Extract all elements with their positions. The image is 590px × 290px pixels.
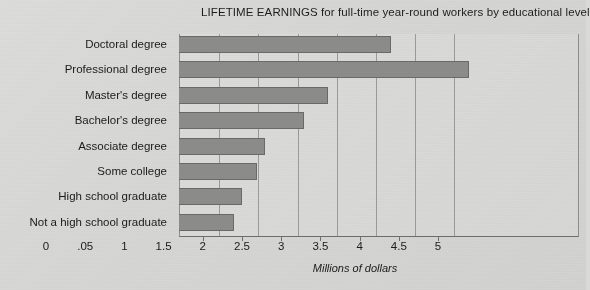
x-tick-label: 2.5 bbox=[234, 240, 250, 252]
category-label: Associate degree bbox=[78, 138, 167, 155]
bar bbox=[179, 36, 391, 53]
x-axis-title-text: Millions of dollars bbox=[313, 262, 397, 274]
x-axis-title: Millions of dollars bbox=[0, 262, 586, 274]
x-tick-label: 5 bbox=[435, 240, 441, 252]
category-label: High school graduate bbox=[58, 188, 167, 205]
x-tick-label: 1 bbox=[121, 240, 127, 252]
x-tick-label: 3 bbox=[278, 240, 284, 252]
category-label: Not a high school graduate bbox=[30, 214, 167, 231]
chart-title: LIFETIME EARNINGS for full-time year-rou… bbox=[201, 6, 590, 18]
bar bbox=[179, 214, 234, 231]
bar-fill bbox=[179, 112, 304, 129]
bar bbox=[179, 138, 265, 155]
x-tick-label: 0 bbox=[43, 240, 49, 252]
category-label: Master's degree bbox=[85, 87, 167, 104]
category-label: Doctoral degree bbox=[85, 36, 167, 53]
category-label: Professional degree bbox=[65, 61, 167, 78]
category-axis-labels: Doctoral degreeProfessional degreeMaster… bbox=[0, 34, 173, 237]
x-tick-label: 1.5 bbox=[156, 240, 172, 252]
bar bbox=[179, 112, 304, 129]
category-label: Some college bbox=[97, 163, 167, 180]
x-axis-tick-labels: 0.0511.522.533.544.55 bbox=[0, 240, 586, 256]
bar bbox=[179, 188, 242, 205]
x-tick-label: .05 bbox=[77, 240, 93, 252]
x-tick-label: 3.5 bbox=[312, 240, 328, 252]
x-tick-label: 2 bbox=[200, 240, 206, 252]
x-tick-label: 4 bbox=[356, 240, 362, 252]
bars-container bbox=[179, 34, 579, 237]
bar bbox=[179, 163, 257, 180]
bar-fill bbox=[179, 36, 391, 53]
bar-fill bbox=[179, 163, 257, 180]
bar-fill bbox=[179, 188, 242, 205]
bar-fill bbox=[179, 138, 265, 155]
x-tick-label: 4.5 bbox=[391, 240, 407, 252]
bar bbox=[179, 61, 469, 78]
category-label: Bachelor's degree bbox=[75, 112, 167, 129]
bar-fill bbox=[179, 87, 328, 104]
bar-fill bbox=[179, 61, 469, 78]
bar bbox=[179, 87, 328, 104]
bar-fill bbox=[179, 214, 234, 231]
